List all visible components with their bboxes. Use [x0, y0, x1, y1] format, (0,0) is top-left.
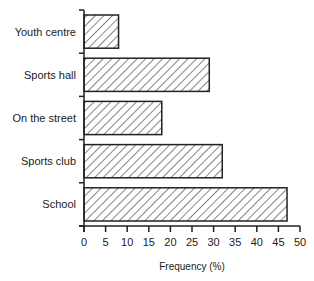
- x-tick-label: 35: [229, 236, 241, 248]
- bar-sports-hall: [84, 58, 209, 91]
- category-label: Sports hall: [24, 69, 76, 81]
- x-tick-label: 10: [121, 236, 133, 248]
- x-tick-label: 45: [272, 236, 284, 248]
- bar-sports-club: [84, 145, 222, 178]
- category-label: On the street: [12, 112, 76, 124]
- x-tick-label: 20: [164, 236, 176, 248]
- x-tick-label: 15: [143, 236, 155, 248]
- x-tick-label: 25: [186, 236, 198, 248]
- y-axis: Youth centreSports hallOn the streetSpor…: [12, 10, 84, 232]
- x-tick-label: 5: [103, 236, 109, 248]
- x-tick-label: 40: [251, 236, 263, 248]
- bar-chart: Youth centreSports hallOn the streetSpor…: [0, 0, 314, 281]
- x-tick-label: 0: [81, 236, 87, 248]
- x-tick-label: 50: [294, 236, 306, 248]
- category-label: Youth centre: [15, 26, 76, 38]
- bar-on-the-street: [84, 101, 162, 134]
- x-axis-title: Frequency (%): [159, 261, 225, 272]
- x-tick-label: 30: [207, 236, 219, 248]
- bar-school: [84, 188, 287, 221]
- bars: [84, 15, 287, 221]
- category-label: School: [42, 198, 76, 210]
- bar-youth-centre: [84, 15, 119, 48]
- category-label: Sports club: [21, 155, 76, 167]
- x-axis: 05101520253035404550: [79, 226, 306, 248]
